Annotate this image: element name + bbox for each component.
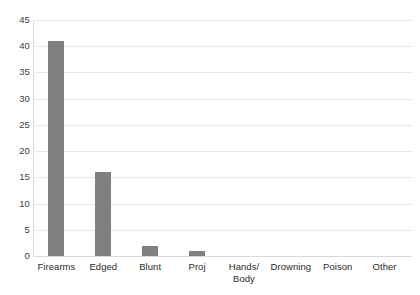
x-axis-category-label: Blunt bbox=[127, 261, 174, 273]
bar[interactable] bbox=[95, 172, 111, 256]
bar[interactable] bbox=[189, 251, 205, 256]
bar-slot bbox=[174, 19, 221, 256]
bar-chart: 051015202530354045 FirearmsEdgedBluntPro… bbox=[0, 0, 420, 295]
bar-slot bbox=[127, 19, 174, 256]
bar-slot bbox=[221, 19, 268, 256]
bar-slot bbox=[80, 19, 127, 256]
bar-slot bbox=[267, 19, 314, 256]
bar-slot bbox=[314, 19, 361, 256]
bar-slot bbox=[33, 19, 80, 256]
x-axis-category-label: Other bbox=[361, 261, 408, 273]
x-axis-category-labels: FirearmsEdgedBluntProjHands/ BodyDrownin… bbox=[0, 257, 420, 295]
x-axis-category-label: Edged bbox=[80, 261, 127, 273]
bars-group bbox=[0, 0, 420, 295]
x-axis-category-label: Poison bbox=[314, 261, 361, 273]
bar-slot bbox=[361, 19, 408, 256]
x-axis-category-label: Drowning bbox=[267, 261, 314, 273]
x-axis-category-label: Hands/ Body bbox=[221, 261, 268, 284]
bar[interactable] bbox=[48, 41, 64, 256]
x-axis-category-label: Firearms bbox=[33, 261, 80, 273]
bar[interactable] bbox=[142, 246, 158, 256]
x-axis-category-label: Proj bbox=[174, 261, 221, 273]
